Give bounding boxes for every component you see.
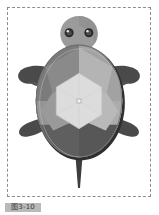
turtle-illustration[interactable] [8,8,150,196]
head[interactable] [60,16,97,49]
selection-marker[interactable] [77,99,81,103]
right-eye [84,28,93,37]
figure-caption: 图3-10 [5,203,41,212]
figure-viewer: 图3-10 [0,0,159,215]
canvas-surface[interactable] [8,8,150,196]
left-eye [65,28,74,37]
canvas-frame [7,7,151,197]
